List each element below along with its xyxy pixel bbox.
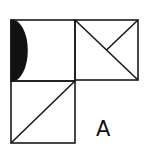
half-disc-shape (11, 20, 27, 81)
tile-top-left (11, 20, 75, 81)
half-diagonal-line (107, 20, 139, 50)
tile-top-right (75, 20, 138, 80)
diagonal-line (11, 81, 75, 143)
tile-figure (0, 0, 149, 156)
tile-bottom-left (11, 81, 75, 143)
option-label: A (96, 119, 110, 140)
